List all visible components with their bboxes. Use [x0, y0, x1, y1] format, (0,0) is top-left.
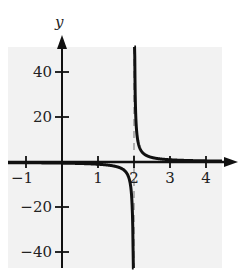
y-tick-label: −40 — [20, 243, 52, 261]
y-axis-label: y — [54, 13, 64, 31]
x-tick-label: 3 — [165, 169, 175, 187]
x-axis-arrow-icon — [224, 157, 238, 167]
y-tick-label: 20 — [33, 108, 52, 126]
x-tick-label: −1 — [11, 169, 33, 187]
y-tick-label: −20 — [20, 198, 52, 216]
y-tick-label: 40 — [33, 63, 52, 81]
function-plot: −11234 4020−20−40 y — [0, 0, 250, 273]
x-tick-label: 1 — [93, 169, 103, 187]
x-tick-label: 4 — [201, 169, 211, 187]
y-axis-arrow-icon — [57, 35, 67, 49]
